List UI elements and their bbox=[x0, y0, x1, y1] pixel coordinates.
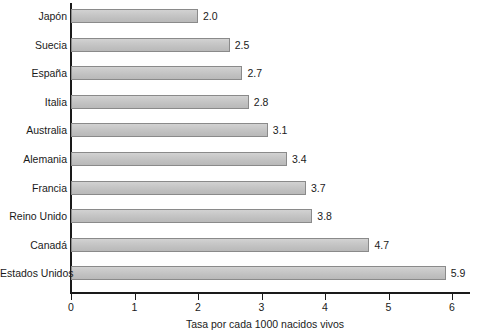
x-tick-mark-6 bbox=[452, 294, 453, 300]
bar-7: 3.7 bbox=[71, 181, 306, 195]
category-label-1: Japón bbox=[0, 11, 67, 22]
category-label-9: Canadá bbox=[0, 240, 67, 251]
category-label-10: Estados Unidos bbox=[0, 268, 67, 279]
bar-value-label: 3.7 bbox=[311, 182, 326, 193]
bar-10: 5.9 bbox=[71, 266, 446, 280]
bar-value-label: 3.1 bbox=[273, 125, 288, 136]
bar-rect bbox=[71, 123, 268, 137]
x-tick-label-4: 4 bbox=[315, 302, 335, 313]
bar-value-label: 4.7 bbox=[374, 240, 389, 251]
bar-2: 2.5 bbox=[71, 38, 230, 52]
bar-5: 3.1 bbox=[71, 123, 268, 137]
x-tick-mark-5 bbox=[389, 294, 390, 300]
bar-9: 4.7 bbox=[71, 238, 369, 252]
category-label-3: España bbox=[0, 68, 67, 79]
x-tick-mark-4 bbox=[325, 294, 326, 300]
category-label-7: Francia bbox=[0, 183, 67, 194]
bar-value-label: 3.4 bbox=[292, 154, 307, 165]
bar-value-label: 2.0 bbox=[203, 11, 218, 22]
bar-rect bbox=[71, 152, 287, 166]
bar-chart: 2.0Japón2.5Suecia2.7España2.8Italia3.1Au… bbox=[0, 0, 486, 336]
bar-rect bbox=[71, 95, 249, 109]
x-tick-label-3: 3 bbox=[252, 302, 272, 313]
category-label-5: Australia bbox=[0, 125, 67, 136]
x-axis-title: Tasa por cada 1000 nacidos vivos bbox=[0, 319, 486, 330]
bar-rect bbox=[71, 266, 446, 280]
category-label-4: Italia bbox=[0, 97, 67, 108]
bar-rect bbox=[71, 238, 369, 252]
category-label-6: Alemania bbox=[0, 154, 67, 165]
x-tick-label-1: 1 bbox=[125, 302, 145, 313]
x-axis-title-text: Tasa por cada 1000 nacidos vivos bbox=[186, 318, 344, 330]
bar-value-label: 3.8 bbox=[317, 211, 332, 222]
bar-rect bbox=[71, 181, 306, 195]
bar-value-label: 2.7 bbox=[247, 68, 262, 79]
bar-6: 3.4 bbox=[71, 152, 287, 166]
bar-value-label: 5.9 bbox=[451, 268, 466, 279]
x-tick-mark-1 bbox=[135, 294, 136, 300]
bar-8: 3.8 bbox=[71, 209, 312, 223]
x-tick-label-6: 6 bbox=[442, 302, 462, 313]
x-axis-line bbox=[70, 292, 470, 294]
x-tick-label-5: 5 bbox=[379, 302, 399, 313]
x-tick-label-0: 0 bbox=[61, 302, 81, 313]
x-tick-label-2: 2 bbox=[188, 302, 208, 313]
category-label-8: Reino Unido bbox=[0, 211, 67, 222]
bar-value-label: 2.5 bbox=[235, 39, 250, 50]
bar-rect bbox=[71, 38, 230, 52]
bar-value-label: 2.8 bbox=[254, 97, 269, 108]
bar-1: 2.0 bbox=[71, 9, 198, 23]
bar-rect bbox=[71, 9, 198, 23]
bar-rect bbox=[71, 66, 242, 80]
x-tick-mark-3 bbox=[262, 294, 263, 300]
bar-3: 2.7 bbox=[71, 66, 242, 80]
bar-4: 2.8 bbox=[71, 95, 249, 109]
category-label-2: Suecia bbox=[0, 40, 67, 51]
x-tick-mark-2 bbox=[198, 294, 199, 300]
x-tick-mark-0 bbox=[71, 294, 72, 300]
bar-rect bbox=[71, 209, 312, 223]
